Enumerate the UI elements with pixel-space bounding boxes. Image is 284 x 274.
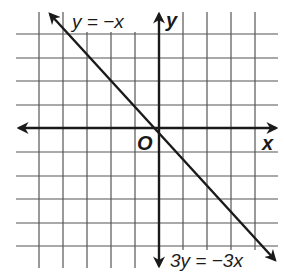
- label-line1: y = −x: [70, 11, 125, 32]
- label-line2: 3y = −3x: [170, 250, 244, 271]
- coordinate-plane: y = −x 3y = −3x y x O: [0, 0, 284, 274]
- origin-label: O: [137, 132, 153, 154]
- y-axis-label: y: [165, 9, 178, 31]
- x-axis-label: x: [261, 132, 274, 154]
